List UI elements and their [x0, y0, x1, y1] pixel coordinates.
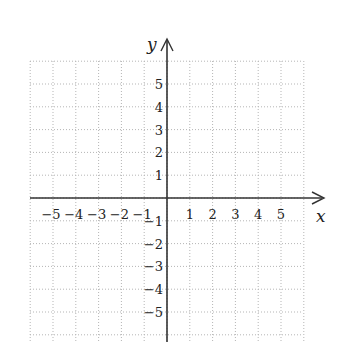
- x-tick-label: 4: [254, 207, 262, 222]
- x-tick-label: 2: [208, 207, 216, 222]
- y-tick-label: −3: [144, 259, 163, 274]
- y-axis-label: y: [146, 34, 157, 54]
- y-tick-label: 2: [155, 145, 163, 160]
- x-tick-label: −3: [87, 207, 106, 222]
- y-tick-label: −4: [144, 282, 163, 297]
- coordinate-grid: x y −5−4−3−2−112345 54321−1−2−3−4−5: [0, 0, 343, 354]
- y-tick-label: −5: [144, 305, 163, 320]
- x-tick-label: 1: [186, 207, 194, 222]
- x-tick-labels: −5−4−3−2−112345: [41, 207, 285, 222]
- y-tick-label: 1: [155, 168, 163, 183]
- x-tick-label: 3: [231, 207, 239, 222]
- y-tick-label: −2: [144, 237, 163, 252]
- y-tick-label: −1: [144, 214, 163, 229]
- x-tick-label: −5: [41, 207, 60, 222]
- y-tick-label: 4: [155, 100, 163, 115]
- x-tick-label: −2: [110, 207, 129, 222]
- x-axis-label: x: [316, 206, 326, 226]
- x-tick-label: −4: [64, 207, 83, 222]
- y-tick-label: 5: [155, 77, 163, 92]
- x-tick-label: 5: [277, 207, 285, 222]
- y-tick-label: 3: [155, 123, 163, 138]
